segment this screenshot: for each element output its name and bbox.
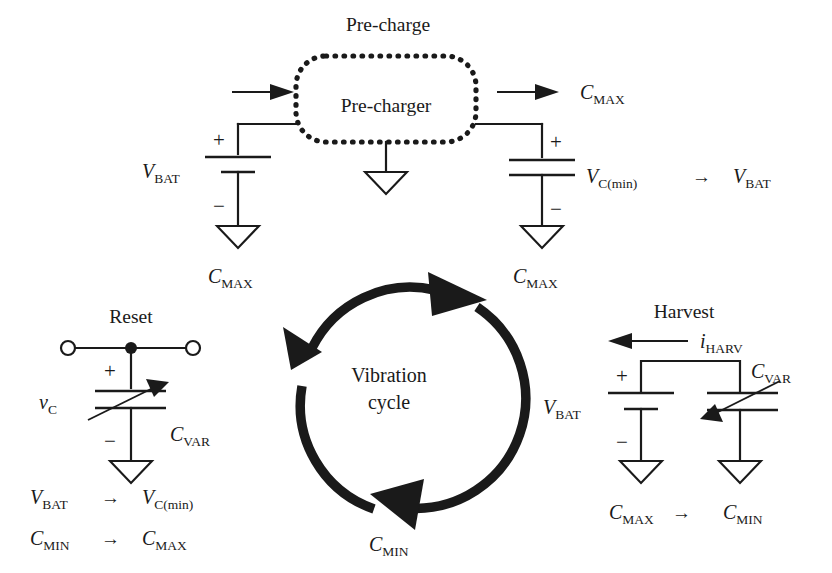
- reset-transition-2-from: CMIN: [30, 527, 70, 553]
- harvest-battery-plus-sign: +: [616, 364, 628, 388]
- reset-transition-1-from: VBAT: [30, 486, 68, 512]
- precharge-battery-left: + − VBAT CMAX: [142, 124, 296, 291]
- harvest-varcap-label: CVAR: [751, 360, 791, 386]
- cycle-arc-top-left: [312, 287, 435, 348]
- precharge-stage: Pre-charge Pre-charger CMAX + − VBAT: [142, 14, 771, 291]
- precharge-capacitor-right: + − VC(min) CMAX: [476, 124, 637, 291]
- reset-transition-row-2: CMIN → CMAX: [30, 527, 187, 553]
- cycle-arrowhead-bottom-left: [370, 479, 424, 530]
- precharge-transition-target: VBAT: [733, 165, 771, 191]
- harvest-stage-label: Harvest: [654, 301, 715, 322]
- reset-terminal-right-icon: [186, 341, 200, 355]
- circuit-diagram-figure: Pre-charge Pre-charger CMAX + − VBAT: [0, 0, 832, 573]
- precharge-capacitor-label: VC(min): [586, 165, 637, 191]
- reset-cap-label: CVAR: [170, 423, 210, 449]
- harvest-battery-minus-sign: −: [616, 430, 628, 454]
- precharge-transition-arrow: →: [692, 166, 711, 187]
- precharge-battery-state-cmax: CMAX: [208, 265, 253, 291]
- precharge-capacitor-minus-sign: −: [550, 197, 562, 221]
- precharge-transition: → VBAT: [692, 165, 771, 191]
- harvest-battery: + − VBAT CMAX: [543, 364, 674, 527]
- precharge-output-arrow-icon: [497, 84, 559, 100]
- precharge-stage-label: Pre-charge: [346, 14, 430, 35]
- reset-minus-sign: −: [104, 429, 116, 453]
- cycle-label-line1: Vibration: [351, 364, 426, 386]
- vibration-cycle: Vibration cycle CMIN: [283, 272, 526, 559]
- reset-ground-icon: [110, 461, 152, 483]
- reset-transition-1-arrow: →: [101, 487, 120, 508]
- harvest-stage: Harvest iHARV + − VBAT CMAX: [543, 301, 791, 527]
- precharge-state-cmax-right: CMAX: [580, 81, 625, 107]
- reset-transition-row-1: VBAT → VC(min): [30, 486, 193, 512]
- harvest-battery-label: VBAT: [543, 396, 581, 422]
- cycle-arc-right: [407, 307, 526, 508]
- cycle-state-cmin: CMIN: [369, 533, 409, 559]
- precharge-battery-plus-sign: +: [213, 128, 225, 152]
- harvest-battery-state-cmax: CMAX: [609, 501, 654, 527]
- precharge-capacitor-plus-sign: +: [550, 130, 562, 154]
- precharger-ground-icon: [365, 142, 407, 194]
- reset-plus-sign: +: [104, 359, 116, 383]
- reset-stage-label: Reset: [109, 306, 153, 327]
- reset-transition-2-to: CMAX: [142, 527, 187, 553]
- precharge-battery-minus-sign: −: [213, 194, 225, 218]
- harvest-varcap-state-cmin: CMIN: [723, 501, 763, 527]
- reset-variability-arrow-icon: [88, 379, 169, 420]
- reset-stage: Reset + − vC CVAR VBAT → VC(min) CMIN → …: [30, 306, 210, 553]
- harvest-top-wire: [641, 361, 740, 391]
- diagram-canvas: Pre-charge Pre-charger CMAX + − VBAT: [0, 0, 832, 573]
- precharger-block-label: Pre-charger: [341, 95, 432, 116]
- reset-terminal-left-icon: [61, 341, 75, 355]
- harvest-current-label: iHARV: [700, 330, 743, 356]
- reset-voltage-label: vC: [39, 391, 57, 417]
- harvest-varcap: CVAR CMIN: [700, 360, 791, 527]
- precharge-battery-label: VBAT: [142, 160, 180, 186]
- harvest-current-arrow-icon: [608, 333, 688, 349]
- cycle-label-line2: cycle: [368, 391, 410, 414]
- cycle-arc-bottom-left: [300, 386, 374, 509]
- precharge-capacitor-state-cmax: CMAX: [513, 265, 558, 291]
- reset-transition-1-to: VC(min): [142, 486, 193, 512]
- reset-transition-2-arrow: →: [101, 528, 120, 549]
- harvest-transition-arrow: →: [672, 502, 691, 523]
- precharge-input-arrow-icon: [232, 84, 294, 100]
